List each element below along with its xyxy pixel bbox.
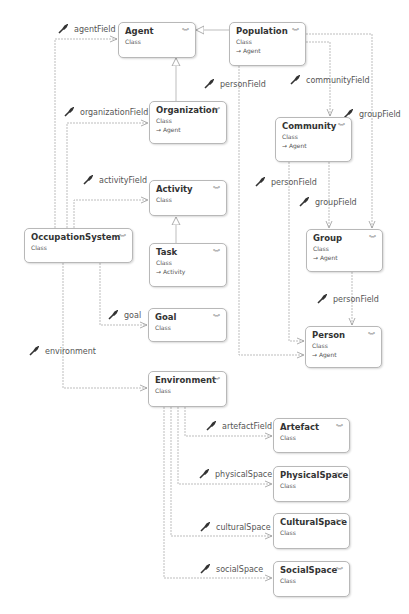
class-social-space[interactable]: SocialSpace Class ︾ — [273, 561, 350, 597]
class-activity[interactable]: Activity Class ︾ — [149, 180, 227, 216]
collapse-chevron-icon[interactable]: ︾ — [213, 105, 220, 115]
class-base-type: → Agent — [312, 350, 375, 359]
association-label-environment[interactable]: environment — [29, 346, 96, 356]
association-name: communityField — [306, 76, 370, 85]
class-group[interactable]: Group Class → Agent ︾ — [306, 229, 383, 272]
association-label-physical-space[interactable]: physicalSpace — [199, 469, 272, 479]
collapse-chevron-icon[interactable]: ︾ — [368, 330, 375, 340]
class-kind: Class — [31, 243, 126, 252]
class-kind: Class — [312, 341, 375, 350]
association-name: personField — [271, 178, 317, 187]
collapse-chevron-icon[interactable]: ︾ — [338, 121, 345, 131]
collapse-chevron-icon[interactable]: ︾ — [213, 247, 220, 257]
association-name: agentField — [74, 25, 116, 34]
collapse-chevron-icon[interactable]: ︾ — [369, 233, 376, 243]
class-name: Task — [156, 247, 220, 258]
class-base-type: → Agent — [236, 46, 299, 55]
class-name: CulturalSpace — [280, 517, 343, 528]
class-artefact[interactable]: Artefact Class ︾ — [273, 418, 350, 453]
wrench-icon — [204, 79, 214, 89]
class-agent[interactable]: Agent Class ︾ — [118, 22, 196, 58]
collapse-chevron-icon[interactable]: ︾ — [119, 232, 126, 242]
class-kind: Class — [280, 481, 343, 490]
association-label-person-field-community[interactable]: personField — [255, 177, 317, 187]
class-name: SocialSpace — [280, 565, 343, 576]
class-name: OccupationSystem — [31, 232, 126, 243]
collapse-chevron-icon[interactable]: ︾ — [213, 375, 220, 385]
class-kind: Class — [280, 528, 343, 537]
wrench-icon — [206, 421, 216, 431]
association-name: goal — [124, 311, 141, 320]
class-diagram-canvas: agentField organizationField activityFie… — [0, 0, 409, 614]
collapse-chevron-icon[interactable]: ︾ — [336, 470, 343, 480]
wrench-icon — [83, 175, 93, 185]
class-name: Population — [236, 26, 299, 37]
association-label-community-field[interactable]: communityField — [290, 75, 370, 85]
association-label-group-field-community[interactable]: groupField — [299, 197, 357, 207]
association-label-agent-field[interactable]: agentField — [58, 24, 116, 34]
class-base-type: → Agent — [156, 125, 220, 134]
class-goal[interactable]: Goal Class ︾ — [148, 308, 227, 342]
class-kind: Class — [282, 132, 345, 141]
association-name: personField — [220, 80, 266, 89]
association-label-social-space[interactable]: socialSpace — [200, 564, 263, 574]
class-name: Artefact — [280, 422, 343, 433]
wrench-icon — [199, 469, 209, 479]
association-label-goal[interactable]: goal — [108, 310, 141, 320]
class-base-type: → Agent — [313, 253, 376, 262]
class-kind: Class — [313, 244, 376, 253]
class-kind: Class — [125, 37, 189, 46]
collapse-chevron-icon[interactable]: ︾ — [182, 26, 189, 36]
class-community[interactable]: Community Class → Agent ︾ — [275, 117, 352, 162]
class-person[interactable]: Person Class → Agent ︾ — [305, 326, 382, 368]
association-name: personField — [333, 295, 379, 304]
association-label-person-field-group[interactable]: personField — [317, 294, 379, 304]
class-physical-space[interactable]: PhysicalSpace Class ︾ — [273, 466, 350, 502]
class-name: Community — [282, 121, 345, 132]
class-kind: Class — [280, 433, 343, 442]
wrench-icon — [299, 197, 309, 207]
association-name: environment — [45, 347, 96, 356]
class-kind: Class — [236, 37, 299, 46]
class-organization[interactable]: Organization Class → Agent ︾ — [149, 101, 227, 144]
collapse-chevron-icon[interactable]: ︾ — [336, 565, 343, 575]
class-population[interactable]: Population Class → Agent ︾ — [229, 22, 306, 66]
association-label-artefact-field[interactable]: artefactField — [206, 421, 272, 431]
collapse-chevron-icon[interactable]: ︾ — [213, 312, 220, 322]
class-name: Group — [313, 233, 376, 244]
association-name: artefactField — [222, 422, 272, 431]
class-task[interactable]: Task Class → Activity ︾ — [149, 243, 227, 287]
class-kind: Class — [156, 258, 220, 267]
wrench-icon — [29, 346, 39, 356]
class-name: PhysicalSpace — [280, 470, 343, 481]
association-name: culturalSpace — [216, 523, 271, 532]
class-occupation-system[interactable]: OccupationSystem Class ︾ — [24, 228, 133, 263]
wrench-icon — [317, 294, 327, 304]
association-label-person-field-population[interactable]: personField — [204, 79, 266, 89]
class-cultural-space[interactable]: CulturalSpace Class ︾ — [273, 513, 350, 549]
association-label-organization-field[interactable]: organizationField — [64, 107, 148, 117]
association-label-cultural-space[interactable]: culturalSpace — [200, 522, 271, 532]
collapse-chevron-icon[interactable]: ︾ — [292, 26, 299, 36]
collapse-chevron-icon[interactable]: ︾ — [336, 517, 343, 527]
wrench-icon — [255, 177, 265, 187]
association-label-activity-field[interactable]: activityField — [83, 175, 147, 185]
wrench-icon — [290, 75, 300, 85]
association-name: organizationField — [80, 108, 148, 117]
association-name: activityField — [99, 176, 147, 185]
class-kind: Class — [156, 116, 220, 125]
class-kind: Class — [155, 323, 220, 332]
class-kind: Class — [280, 576, 343, 585]
class-name: Activity — [156, 184, 220, 195]
class-base-type: → Activity — [156, 267, 220, 276]
wrench-icon — [58, 24, 68, 34]
association-label-group-field-population[interactable]: groupField — [343, 109, 401, 119]
collapse-chevron-icon[interactable]: ︾ — [336, 422, 343, 432]
wrench-icon — [64, 107, 74, 117]
association-name: groupField — [359, 110, 401, 119]
class-base-type: → Agent — [282, 141, 345, 150]
class-environment[interactable]: Environment Class ︾ — [148, 371, 227, 407]
collapse-chevron-icon[interactable]: ︾ — [213, 184, 220, 194]
class-name: Environment — [155, 375, 220, 386]
association-name: socialSpace — [216, 565, 263, 574]
